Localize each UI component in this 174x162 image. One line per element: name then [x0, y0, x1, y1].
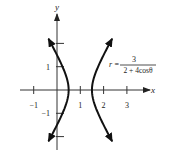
y-tick-label: 1	[46, 63, 50, 72]
x-tick-label: 3	[125, 101, 129, 110]
polar-hyperbola-plot: −11231−1 x y r = 3 2 + 4cosθ	[0, 0, 174, 162]
x-tick-label: 2	[102, 101, 106, 110]
y-axis-label: y	[54, 2, 59, 12]
axes	[20, 14, 150, 150]
x-tick-label: −1	[29, 101, 38, 110]
equation-lhs: r =	[109, 60, 120, 69]
equation: r = 3 2 + 4cosθ	[109, 55, 156, 75]
labels: x y	[54, 2, 155, 95]
x-axis-label: x	[150, 85, 155, 95]
x-tick-label: 1	[78, 101, 82, 110]
equation-denominator: 2 + 4cosθ	[123, 66, 152, 75]
equation-numerator: 3	[132, 55, 136, 64]
y-tick-label: −1	[41, 109, 50, 118]
